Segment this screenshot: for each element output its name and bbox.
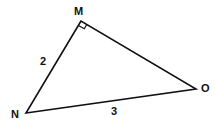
side-label-no: 3	[111, 105, 117, 117]
vertex-label-n: N	[11, 108, 19, 120]
vertex-label-m: M	[74, 5, 83, 17]
side-label-mn: 2	[40, 55, 46, 67]
vertex-label-o: O	[201, 82, 210, 94]
right-angle-marker-icon	[78, 24, 87, 28]
triangle-mno	[26, 21, 196, 113]
triangle-diagram: M N O 2 3	[0, 0, 217, 125]
